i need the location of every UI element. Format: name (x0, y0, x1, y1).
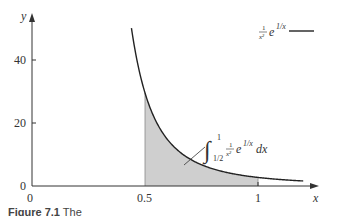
svg-text:1: 1 (262, 24, 266, 32)
svg-text:1/x: 1/x (276, 22, 286, 31)
svg-text:e: e (269, 25, 275, 39)
figure-caption-text: The (63, 206, 82, 216)
y-axis-arrow-icon (29, 13, 35, 22)
x-axis-label: x (312, 191, 319, 205)
y-tick-label-20: 20 (14, 116, 26, 130)
svg-text:1/2: 1/2 (213, 154, 223, 163)
chart: y 40 20 0 0 0.5 1 x ∫ 1 1/2 1 x² e 1/x d… (0, 0, 339, 216)
x-tick-label-0: 0 (27, 191, 33, 205)
svg-text:∫: ∫ (202, 137, 212, 165)
x-tick-label-1: 1 (255, 191, 261, 205)
figure-caption: Figure 7.1 The (8, 206, 82, 216)
y-tick-label-40: 40 (14, 53, 26, 67)
figure-label: Figure 7.1 (8, 206, 60, 216)
x-axis-arrow-icon (310, 183, 319, 189)
svg-text:1: 1 (217, 133, 221, 142)
integral-annotation: ∫ 1 1/2 1 x² e 1/x dx (202, 133, 268, 165)
x-tick-label-half: 0.5 (137, 191, 152, 205)
legend: 1 x² e 1/x (258, 22, 314, 41)
y-axis-label: y (20, 9, 27, 23)
svg-text:e: e (236, 142, 242, 156)
y-tick-label-0: 0 (20, 179, 26, 193)
svg-text:1: 1 (229, 141, 233, 149)
svg-text:x²: x² (258, 33, 265, 41)
svg-text:1/x: 1/x (243, 139, 253, 148)
svg-text:dx: dx (256, 142, 268, 156)
svg-text:x²: x² (225, 150, 232, 158)
shaded-integral-region (145, 93, 258, 186)
